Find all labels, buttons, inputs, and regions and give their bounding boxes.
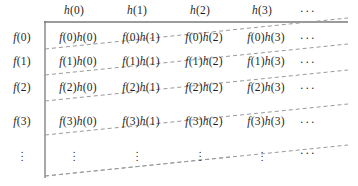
column-header-4: ··· bbox=[300, 4, 317, 19]
row-header-2: f(2) bbox=[13, 82, 30, 94]
table-cell-21: ... bbox=[136, 147, 139, 159]
table-cell-2: f(0)h(2) bbox=[185, 32, 222, 44]
table-cell-12: f(2)h(2) bbox=[185, 82, 222, 94]
table-cell-11: f(2)h(1) bbox=[122, 82, 159, 94]
table-cell-0: f(0)h(0) bbox=[59, 32, 96, 44]
table-cell-19: ··· bbox=[300, 115, 317, 130]
table-cell-17: f(3)h(2) bbox=[185, 116, 222, 128]
table-cell-23: ... bbox=[261, 147, 264, 159]
table-cell-20: ... bbox=[73, 147, 76, 159]
table-cell-18: f(3)h(3) bbox=[247, 116, 284, 128]
table-cell-9: ··· bbox=[300, 55, 317, 70]
table-cell-5: f(1)h(0) bbox=[59, 56, 96, 68]
table-cell-7: f(1)h(2) bbox=[185, 56, 222, 68]
table-cell-3: f(0)h(3) bbox=[247, 32, 284, 44]
table-cell-4: ··· bbox=[300, 31, 317, 46]
table-cell-8: f(1)h(3) bbox=[247, 56, 284, 68]
table-cell-1: f(0)h(1) bbox=[122, 32, 159, 44]
table-cell-15: f(3)h(0) bbox=[59, 116, 96, 128]
table-cell-10: f(2)h(0) bbox=[59, 82, 96, 94]
row-header-4: ... bbox=[21, 147, 24, 159]
row-header-3: f(3) bbox=[13, 116, 30, 128]
table-cell-24: ··· bbox=[300, 146, 317, 161]
column-header-2: h(2) bbox=[190, 5, 210, 17]
convolution-product-table: h(0)h(1)h(2)h(3)··· f(0)f(1)f(2)f(3)... … bbox=[0, 0, 358, 186]
table-cell-16: f(3)h(1) bbox=[122, 116, 159, 128]
column-header-0: h(0) bbox=[64, 5, 84, 17]
table-cell-22: ... bbox=[199, 147, 202, 159]
table-cell-13: f(2)h(3) bbox=[247, 82, 284, 94]
column-header-1: h(1) bbox=[127, 5, 147, 17]
table-cell-6: f(1)h(1) bbox=[122, 56, 159, 68]
column-header-3: h(3) bbox=[252, 5, 272, 17]
row-header-0: f(0) bbox=[13, 32, 30, 44]
row-header-1: f(1) bbox=[13, 56, 30, 68]
table-cell-14: ··· bbox=[300, 81, 317, 96]
